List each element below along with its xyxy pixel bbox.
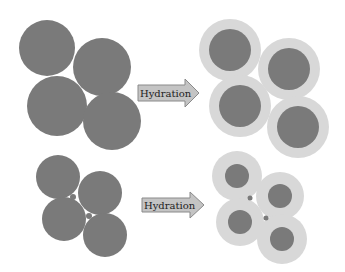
particle-core — [219, 85, 261, 127]
arrow-label: Hydration — [140, 88, 192, 99]
particle — [83, 213, 127, 257]
particle — [36, 155, 80, 199]
particle — [78, 171, 122, 215]
large-particles-hydrated — [199, 19, 329, 158]
particle-core — [268, 48, 310, 90]
particle — [83, 92, 141, 150]
large-particles-dry — [19, 20, 141, 150]
particle — [42, 197, 86, 241]
particle-core — [228, 210, 252, 234]
hydration-diagram: Hydration Hydration — [0, 0, 345, 272]
particle-core — [268, 184, 292, 208]
particle-core — [225, 164, 249, 188]
particle-core — [277, 106, 319, 148]
fine-particle — [248, 196, 253, 201]
arrow-label: Hydration — [144, 200, 196, 211]
hydration-arrow-bottom: Hydration — [142, 192, 204, 218]
small-particles-hydrated — [212, 151, 307, 264]
fine-particle — [70, 194, 76, 200]
particle — [27, 76, 87, 136]
particle — [73, 38, 131, 96]
particle-core — [270, 227, 294, 251]
particle — [19, 20, 75, 76]
particle-core — [209, 29, 251, 71]
hydration-arrow-top: Hydration — [138, 79, 199, 107]
fine-particle — [264, 216, 269, 221]
small-particles-dry — [36, 155, 127, 257]
fine-particle — [86, 213, 92, 219]
